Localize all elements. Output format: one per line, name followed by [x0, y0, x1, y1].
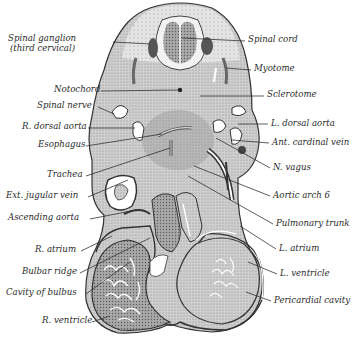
label-trachea: Trachea — [47, 169, 83, 179]
label-r-ventricle: R. ventricle — [42, 315, 92, 325]
label-l-atrium: L. atrium — [279, 243, 319, 253]
label-r-atrium: R. atrium — [35, 244, 76, 254]
label-pericardial-cavity: Pericardial cavity — [274, 295, 350, 305]
label-notochord: Notochord — [54, 84, 100, 94]
notochord-dot — [178, 88, 182, 92]
label-ascending-aorta: Ascending aorta — [8, 212, 79, 222]
label-ant-cardinal-vein: Ant. cardinal vein — [272, 137, 349, 147]
label-r-dorsal-aorta: R. dorsal aorta — [22, 121, 87, 131]
label-bulbar-ridge: Bulbar ridge — [22, 266, 77, 276]
label-l-ventricle: L. ventricle — [280, 268, 330, 278]
label-sclerotome: Sclerotome — [267, 89, 317, 99]
spinal-cord-shape — [156, 16, 205, 70]
label-spinal-cord: Spinal cord — [248, 34, 298, 44]
label-spinal-ganglion: Spinal ganglion — [8, 33, 76, 43]
label-aortic-arch-6: Aortic arch 6 — [273, 190, 330, 200]
label-n-vagus: N. vagus — [273, 162, 311, 172]
label-l-dorsal-aorta: L. dorsal aorta — [271, 118, 335, 128]
label-spinal-nerve: Spinal nerve — [37, 100, 92, 110]
spinal-ganglion-left — [148, 38, 158, 58]
label-ext-jugular-vein: Ext. jugular vein — [6, 190, 78, 200]
label-spinal-ganglion-sub: (third cervical) — [10, 43, 75, 53]
anatomy-figure: Spinal ganglion (third cervical) Notocho… — [0, 0, 364, 341]
label-pulmonary-trunk: Pulmonary trunk — [276, 218, 350, 228]
label-myotome: Myotome — [254, 63, 295, 73]
label-esophagus: Esophagus — [38, 139, 85, 149]
label-cavity-of-bulbus: Cavity of bulbus — [6, 287, 77, 297]
